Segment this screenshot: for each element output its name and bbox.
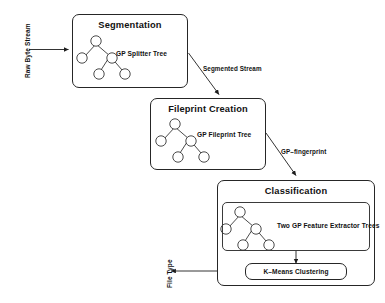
diagram-canvas: Raw Byte Stream Segmentation GP Splitter… — [0, 0, 385, 303]
tree-label-gp-splitter-tree: GP Splitter Tree — [116, 50, 167, 57]
edge-label-raw-byte-stream: Raw Byte Stream — [24, 23, 31, 78]
edge-label-segmented-stream: Segmented Stream — [203, 65, 262, 72]
edge-label-gp-fingerprint: GP–fingerprint — [281, 148, 326, 155]
edge-label-file-type: File Type — [166, 259, 173, 288]
stage-title-segmentation: Segmentation — [73, 20, 187, 30]
tree-label-feature-extractor-trees: Two GP Feature Extractor Trees — [277, 222, 379, 229]
tree-label-gp-fileprint-tree: GP Fileprint Tree — [197, 131, 251, 138]
kmeans-clustering-block[interactable]: K–Means Clustering — [245, 263, 347, 280]
kmeans-clustering-label: K–Means Clustering — [263, 268, 328, 275]
connector-segmented-stream — [189, 53, 220, 95]
stage-title-fileprint-creation: Fileprint Creation — [151, 104, 265, 114]
stage-title-classification: Classification — [218, 186, 374, 196]
